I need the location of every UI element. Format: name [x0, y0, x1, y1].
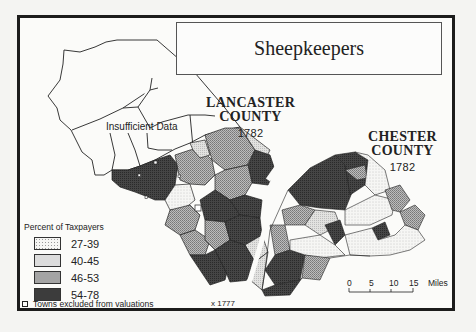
legend-row: 46-53 — [24, 269, 104, 286]
legend-row: 27-39 — [24, 235, 104, 252]
legend-swatch-27-39 — [34, 237, 61, 250]
map-title-box: Sheepkeepers — [176, 22, 442, 75]
chester-county-label: CHESTER COUNTY 1782 — [368, 130, 437, 174]
legend-row: 40-45 — [24, 252, 104, 269]
insufficient-data-label: Insufficient Data — [106, 121, 178, 132]
scale-bar-line — [345, 278, 425, 298]
lancaster-county-label: LANCASTER COUNTY 1782 — [206, 96, 295, 140]
scale-bar: 0 5 10 15 Miles — [345, 278, 465, 298]
legend-swatch-40-45 — [34, 254, 61, 267]
towns-excluded-note: Towns excluded from valuations — [22, 299, 153, 309]
marker-1777: x 1777 — [211, 299, 235, 308]
map-title: Sheepkeepers — [254, 37, 364, 60]
lancaster-year: 1782 — [206, 126, 295, 140]
town-square-icon — [22, 301, 28, 307]
chester-year: 1782 — [368, 160, 437, 174]
legend: Percent of Taxpayers 27-39 40-45 46-53 5… — [24, 222, 104, 303]
legend-title: Percent of Taxpayers — [24, 222, 104, 232]
legend-swatch-46-53 — [34, 271, 61, 284]
